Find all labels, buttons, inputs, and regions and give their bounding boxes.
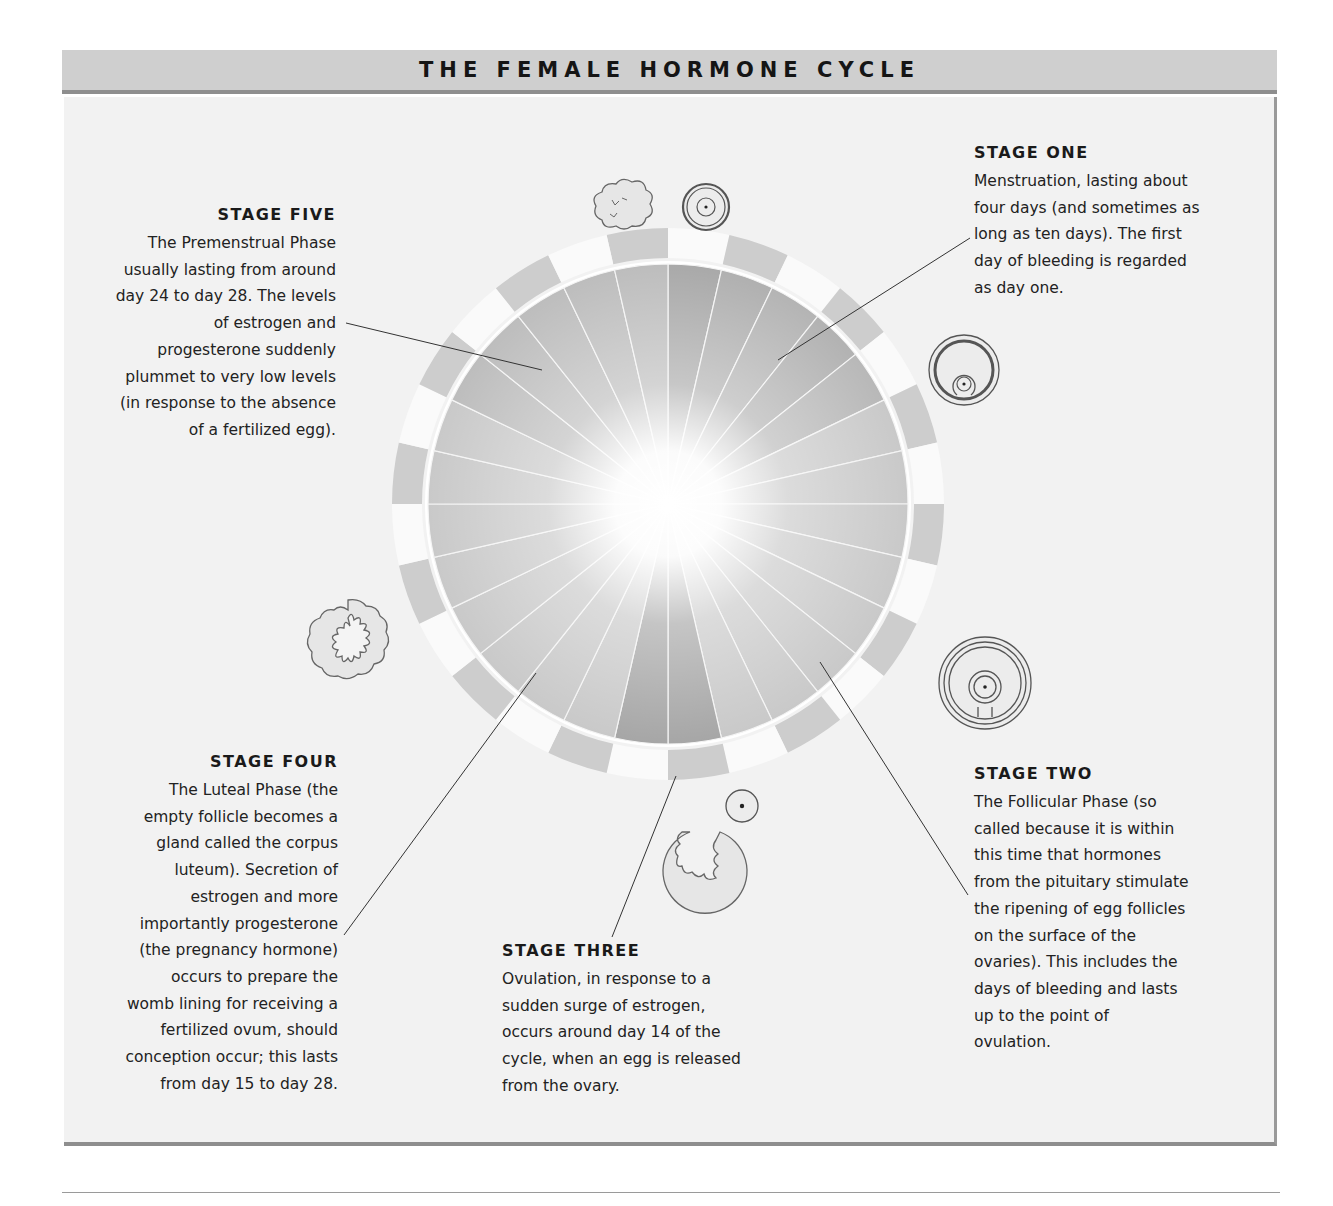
- text-line: the ripening of egg follicles: [974, 896, 1214, 923]
- text-line: from the ovary.: [502, 1073, 772, 1100]
- day-ring-segment: [908, 504, 944, 565]
- stage-four-block: STAGE FOUR The Luteal Phase (the empty f…: [98, 752, 338, 1097]
- text-line: days of bleeding and lasts: [974, 976, 1214, 1003]
- stage-one-title: STAGE ONE: [974, 143, 1214, 162]
- ruptured-follicle-icon: [663, 832, 747, 913]
- text-line: sudden surge of estrogen,: [502, 993, 772, 1020]
- day-ring-segment: [392, 443, 428, 504]
- text-line: of a fertilized egg).: [96, 417, 336, 444]
- text-line: of estrogen and: [96, 310, 336, 337]
- text-line: (in response to the absence: [96, 390, 336, 417]
- text-line: this time that hormones: [974, 842, 1214, 869]
- text-line: day of bleeding is regarded: [974, 248, 1214, 275]
- day-ring-segment: [607, 228, 668, 264]
- text-line: ovaries). This includes the: [974, 949, 1214, 976]
- text-line: four days (and sometimes as: [974, 195, 1214, 222]
- stage-five-title: STAGE FIVE: [96, 205, 336, 224]
- text-line: occurs to prepare the: [98, 964, 338, 991]
- text-line: from the pituitary stimulate: [974, 869, 1214, 896]
- text-line: called because it is within: [974, 816, 1214, 843]
- text-line: gland called the corpus: [98, 830, 338, 857]
- day-ring-segment: [668, 744, 729, 780]
- day-ring-segment: [392, 504, 428, 565]
- stage-five-text: The Premenstrual Phase usually lasting f…: [96, 230, 336, 444]
- released-egg-icon: [726, 790, 758, 822]
- text-line: conception occur; this lasts: [98, 1044, 338, 1071]
- day-ring-segment: [908, 443, 944, 504]
- text-line: occurs around day 14 of the: [502, 1019, 772, 1046]
- text-line: Menstruation, lasting about: [974, 168, 1214, 195]
- text-line: ovulation.: [974, 1029, 1214, 1056]
- text-line: fertilized ovum, should: [98, 1017, 338, 1044]
- mature-follicle-icon: [939, 637, 1031, 729]
- text-line: Ovulation, in response to a: [502, 966, 772, 993]
- text-line: up to the point of: [974, 1003, 1214, 1030]
- text-line: from day 15 to day 28.: [98, 1071, 338, 1098]
- shed-lining-icon: [594, 179, 652, 229]
- stage-two-text: The Follicular Phase (so called because …: [974, 789, 1214, 1056]
- developing-follicle-icon: [929, 335, 999, 405]
- text-line: estrogen and more: [98, 884, 338, 911]
- stage-three-block: STAGE THREE Ovulation, in response to a …: [502, 941, 772, 1100]
- primary-follicle-icon: [683, 184, 729, 230]
- text-line: (the pregnancy hormone): [98, 937, 338, 964]
- text-line: on the surface of the: [974, 923, 1214, 950]
- day-ring-segment: [668, 228, 729, 264]
- stage-five-block: STAGE FIVE The Premenstrual Phase usuall…: [96, 205, 336, 444]
- text-line: long as ten days). The first: [974, 221, 1214, 248]
- center-glow: [428, 264, 908, 744]
- text-line: The Premenstrual Phase: [96, 230, 336, 257]
- text-line: progesterone suddenly: [96, 337, 336, 364]
- text-line: importantly progesterone: [98, 911, 338, 938]
- leader-line-stage-four: [344, 673, 536, 935]
- stage-four-text: The Luteal Phase (the empty follicle bec…: [98, 777, 338, 1097]
- corpus-luteum-icon: [307, 600, 388, 679]
- text-line: The Follicular Phase (so: [974, 789, 1214, 816]
- text-line: cycle, when an egg is released: [502, 1046, 772, 1073]
- day-ring-segment: [607, 744, 668, 780]
- text-line: womb lining for receiving a: [98, 991, 338, 1018]
- stage-two-title: STAGE TWO: [974, 764, 1214, 783]
- text-line: plummet to very low levels: [96, 364, 336, 391]
- stage-one-block: STAGE ONE Menstruation, lasting about fo…: [974, 143, 1214, 302]
- text-line: as day one.: [974, 275, 1214, 302]
- text-line: day 24 to day 28. The levels: [96, 283, 336, 310]
- stage-one-text: Menstruation, lasting about four days (a…: [974, 168, 1214, 302]
- stage-three-title: STAGE THREE: [502, 941, 772, 960]
- text-line: empty follicle becomes a: [98, 804, 338, 831]
- text-line: The Luteal Phase (the: [98, 777, 338, 804]
- stage-two-block: STAGE TWO The Follicular Phase (so calle…: [974, 764, 1214, 1056]
- text-line: luteum). Secretion of: [98, 857, 338, 884]
- stage-three-text: Ovulation, in response to a sudden surge…: [502, 966, 772, 1100]
- stage-four-title: STAGE FOUR: [98, 752, 338, 771]
- text-line: usually lasting from around: [96, 257, 336, 284]
